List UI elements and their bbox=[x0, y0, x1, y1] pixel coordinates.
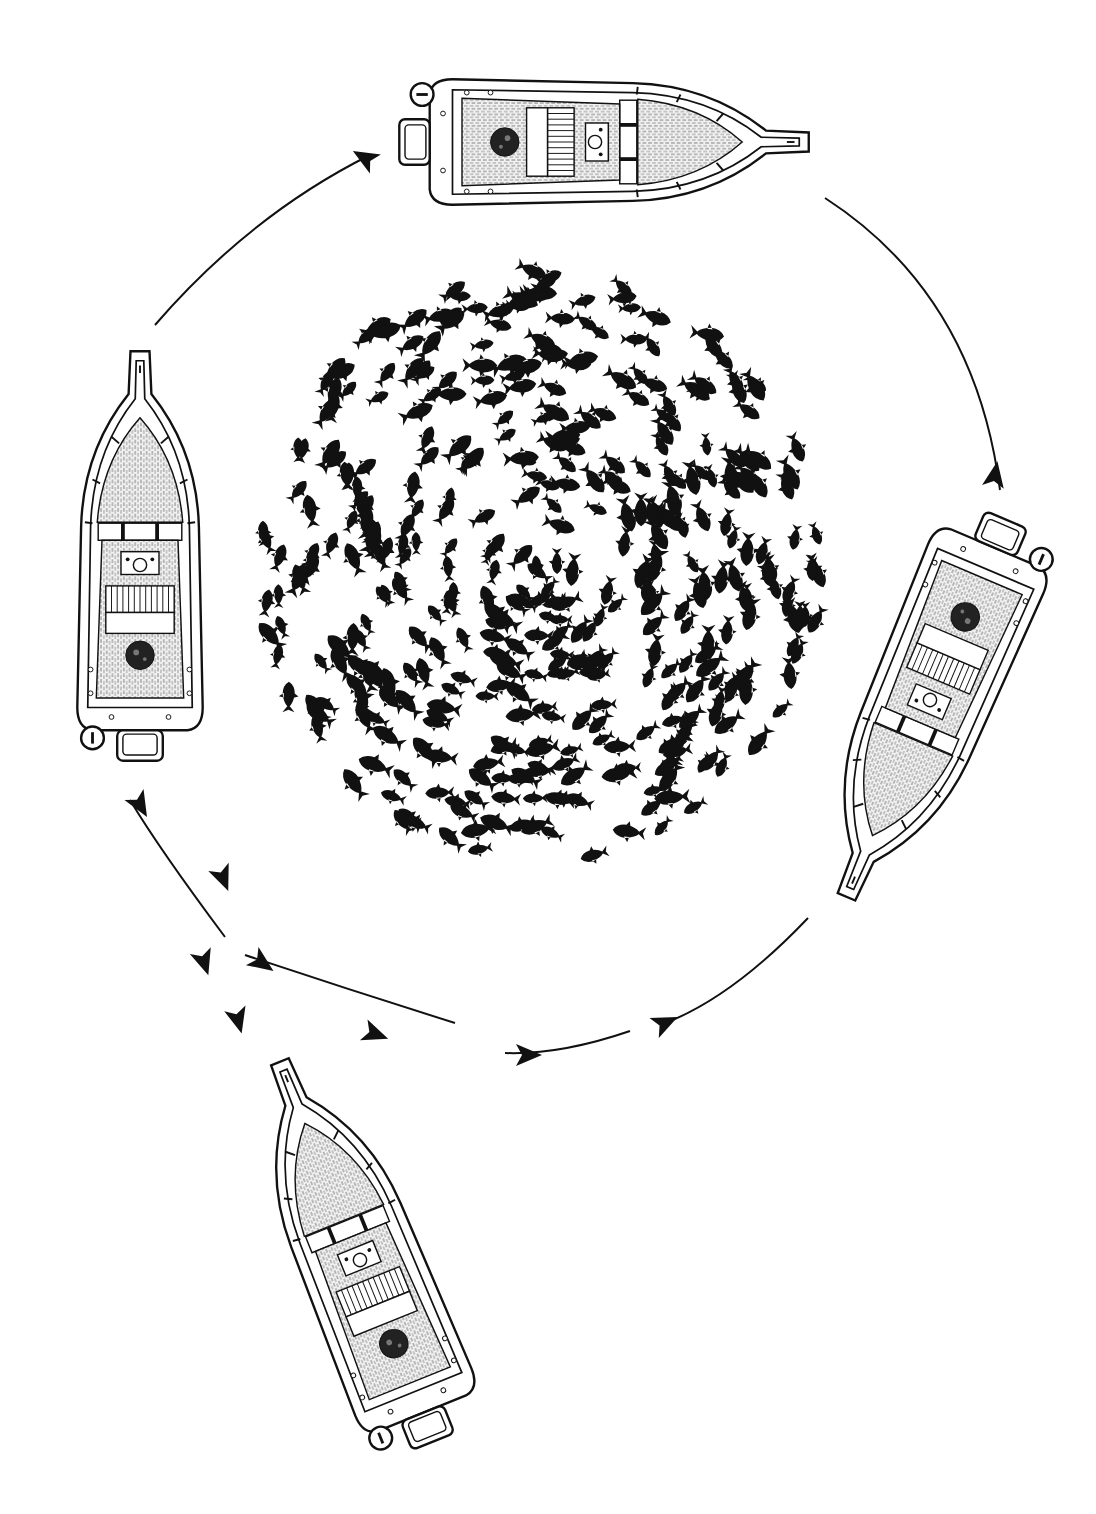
fish-icon bbox=[279, 682, 299, 713]
fish-icon bbox=[642, 632, 668, 668]
fish-icon bbox=[805, 520, 827, 547]
fish-icon bbox=[411, 441, 445, 475]
fish-icon bbox=[378, 785, 408, 809]
fish-icon bbox=[686, 498, 717, 535]
fish-icon bbox=[271, 584, 287, 608]
fish-icon bbox=[545, 308, 576, 329]
fish-icon bbox=[523, 790, 548, 807]
fish-icon bbox=[490, 787, 521, 809]
fish-icon bbox=[267, 643, 287, 670]
arrowhead-icon bbox=[649, 1007, 682, 1038]
fish-school bbox=[251, 255, 833, 868]
fish-icon bbox=[318, 529, 344, 561]
fish-icon bbox=[436, 275, 470, 307]
fish-icon bbox=[371, 358, 401, 391]
arrow-seg-2 bbox=[825, 198, 1000, 490]
fish-icon bbox=[439, 555, 458, 582]
arrow-seg-6 bbox=[130, 800, 225, 937]
fish-icon bbox=[492, 424, 519, 449]
fish-icon bbox=[680, 549, 704, 576]
arrowhead-icon bbox=[347, 141, 381, 173]
fish-icon bbox=[539, 490, 567, 518]
fish-icon bbox=[508, 479, 545, 513]
arrowhead-icon bbox=[190, 947, 219, 979]
fish-icon bbox=[470, 372, 494, 388]
illustration-canvas bbox=[0, 0, 1096, 1514]
fish-icon bbox=[476, 807, 517, 840]
arrow-seg-5 bbox=[245, 955, 455, 1023]
fish-icon bbox=[540, 510, 578, 540]
arrowhead-icon bbox=[208, 863, 238, 895]
fish-icon bbox=[432, 820, 469, 856]
boat-bottom-icon bbox=[222, 1038, 492, 1465]
fish-icon bbox=[469, 335, 495, 354]
fish-icon bbox=[388, 763, 421, 795]
fish-icon bbox=[560, 552, 585, 587]
fish-icon bbox=[768, 696, 796, 723]
boat-top-icon bbox=[399, 79, 808, 204]
fish-icon bbox=[567, 289, 598, 313]
fish-icon bbox=[631, 717, 663, 746]
fish-icon bbox=[461, 299, 488, 318]
fish-icon bbox=[740, 720, 779, 761]
fish-icon bbox=[549, 548, 566, 574]
arrow-seg-1 bbox=[155, 155, 370, 325]
fish-icon bbox=[502, 446, 539, 471]
fish-icon bbox=[337, 539, 371, 579]
fish-icon bbox=[637, 661, 661, 690]
fish-icon bbox=[627, 453, 657, 483]
boat-right-icon bbox=[789, 495, 1064, 921]
fish-icon bbox=[462, 354, 497, 377]
fish-icon bbox=[472, 385, 510, 414]
boat-left-icon bbox=[77, 351, 202, 760]
fish-icon bbox=[717, 615, 738, 646]
arrowhead-icon bbox=[360, 1020, 392, 1050]
fish-icon bbox=[638, 330, 666, 361]
fish-icon bbox=[578, 842, 610, 868]
arrowhead-icon bbox=[246, 947, 280, 980]
arrowhead-icon bbox=[516, 1044, 542, 1066]
arrowhead-icon bbox=[224, 1006, 252, 1037]
fish-icon bbox=[429, 493, 461, 529]
fish-icon bbox=[636, 301, 674, 332]
fish-icon bbox=[620, 330, 647, 347]
fish-icon bbox=[698, 432, 715, 456]
fish-icon bbox=[490, 405, 518, 432]
fish-icon bbox=[466, 839, 493, 859]
fish-icon bbox=[437, 534, 462, 561]
fish-icon bbox=[466, 503, 499, 532]
fish-icon bbox=[450, 624, 476, 655]
arrow-seg-3 bbox=[660, 918, 808, 1025]
fish-icon bbox=[582, 497, 609, 520]
fish-icon bbox=[613, 525, 637, 558]
fish-icon bbox=[689, 321, 726, 347]
fish-icon bbox=[611, 819, 646, 844]
fish-icon bbox=[364, 386, 392, 410]
fish-icon bbox=[650, 813, 676, 840]
fish-icon bbox=[532, 393, 574, 430]
fish-icon bbox=[522, 665, 549, 686]
fish-icon bbox=[297, 493, 324, 530]
fish-icon bbox=[785, 523, 805, 551]
